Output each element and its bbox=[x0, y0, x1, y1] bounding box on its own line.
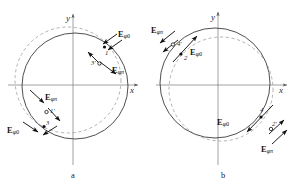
point-marker-1prime bbox=[45, 110, 48, 113]
field-label-e-phi0-bot: Eφ0 bbox=[7, 127, 19, 136]
field-label-e-phipi-bot: Eφπ bbox=[261, 146, 273, 155]
x-axis-label: x bbox=[279, 86, 283, 95]
point-label-1: 1 bbox=[105, 50, 108, 57]
solid-circle bbox=[22, 33, 128, 139]
panel-b-axes bbox=[156, 12, 287, 165]
point-label-1prime: 1′ bbox=[50, 108, 55, 115]
field-label-e-phi0-top: Eφ0 bbox=[190, 49, 202, 58]
panel-b-caption: b bbox=[221, 170, 225, 180]
point-label-2: 2 bbox=[184, 55, 187, 62]
panel-b: y x Eφπ Eφ0 Eφ0 Eφπ 4′ 2 4 2′ bbox=[151, 0, 302, 186]
field-label-e-phi0-bot: Eφ0 bbox=[217, 119, 229, 128]
field-label-e-phi0-top: Eφ0 bbox=[118, 31, 130, 40]
field-arrow bbox=[30, 90, 44, 103]
field-label-e-phipi-top: Eφπ bbox=[151, 27, 163, 36]
point-marker-4prime bbox=[171, 43, 174, 46]
point-marker-2prime bbox=[269, 127, 272, 130]
x-axis-label: x bbox=[130, 86, 134, 95]
figure-diagram: y x Eφ0 Eφπ Eφπ Eφ0 1 3′ 1′ 3 bbox=[0, 0, 302, 186]
point-label-4prime: 4′ bbox=[177, 41, 182, 48]
vector-group-e-phi0-bot bbox=[23, 122, 57, 135]
point-label-3prime: 3′ bbox=[91, 60, 96, 67]
field-arrow bbox=[272, 130, 287, 144]
point-label-4: 4 bbox=[260, 107, 263, 114]
point-marker-2 bbox=[179, 52, 182, 55]
point-label-2prime: 2′ bbox=[272, 121, 277, 128]
panel-a-graphics bbox=[0, 0, 151, 186]
field-arrow bbox=[103, 34, 117, 44]
field-label-e-phipi-bot: Eφπ bbox=[45, 94, 57, 103]
field-arrow bbox=[23, 122, 38, 132]
point-marker-4 bbox=[259, 115, 262, 118]
field-arrow bbox=[108, 40, 122, 50]
y-axis-label: y bbox=[66, 14, 70, 23]
point-label-3: 3 bbox=[46, 120, 49, 127]
field-label-e-phipi-top: Eφπ bbox=[112, 67, 124, 76]
panel-a: y x Eφ0 Eφπ Eφπ Eφ0 1 3′ 1′ 3 bbox=[0, 0, 151, 186]
panel-a-caption: a bbox=[71, 170, 75, 180]
y-axis-label: y bbox=[211, 13, 215, 22]
